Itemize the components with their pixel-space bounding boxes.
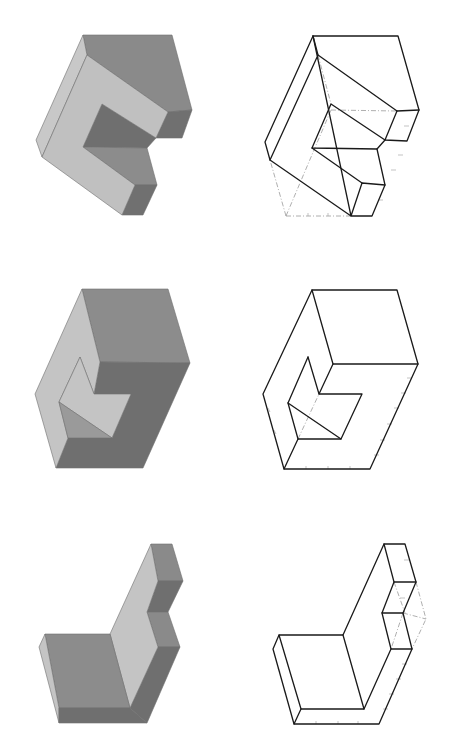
line-drawing-1: [265, 36, 419, 216]
line-drawing-3: [273, 544, 426, 724]
shaded-solid-1: [36, 35, 192, 215]
shaded-solid-2: [35, 289, 190, 468]
isometric-figure: [0, 0, 449, 755]
line-drawing-2: [263, 290, 418, 469]
shaded-solid-3: [39, 544, 183, 723]
